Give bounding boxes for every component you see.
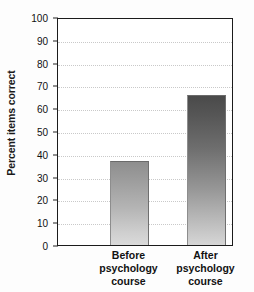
y-tick-label: 20 [37,195,48,206]
y-tick-label: 50 [37,127,48,138]
x-category-label-line: course [86,275,172,288]
plot-area [57,18,233,246]
y-tick-label: 80 [37,58,48,69]
y-tick-label: 30 [37,172,48,183]
gridline [58,42,232,43]
y-axis-title-text: Percent items correct [5,70,17,175]
bar-chart-figure: Percent items correct 010203040506070809… [0,0,254,292]
x-category-label: Beforepsychologycourse [86,249,172,288]
x-category-label-line: Before [86,249,172,262]
x-axis-category-labels: BeforepsychologycourseAfterpsychologycou… [57,249,233,292]
y-tick-label: 0 [42,241,48,252]
y-tick-label: 60 [37,104,48,115]
y-tick-label: 100 [31,13,48,24]
x-category-label: Afterpsychologycourse [163,249,249,288]
y-tick-label: 10 [37,218,48,229]
y-tick-label: 70 [37,81,48,92]
x-category-label-line: psychology [163,262,249,275]
x-category-label-line: psychology [86,262,172,275]
gridline [58,65,232,66]
bar [187,95,226,245]
x-category-label-line: After [163,249,249,262]
y-axis-title: Percent items correct [0,0,22,245]
bar [110,161,149,245]
x-category-label-line: course [163,275,249,288]
gridline [58,87,232,88]
y-tick-label: 90 [37,35,48,46]
y-axis-tick-labels: 0102030405060708090100 [20,18,52,245]
y-tick-label: 40 [37,149,48,160]
